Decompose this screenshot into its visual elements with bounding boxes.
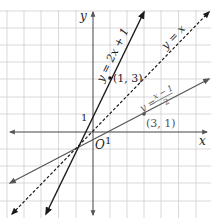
origin-label: O [95, 138, 105, 152]
label-line-y-half: y = x − 1 2 [135, 83, 179, 118]
y-tick-label: 1 [81, 112, 87, 123]
line-y-half-x-minus-half [10, 79, 209, 183]
grid [0, 10, 211, 218]
line-y-equals-x [12, 12, 209, 214]
coordinate-plane: y x O 1 1 y = 2x + 1 y = x y = x − 1 2 (… [0, 0, 211, 218]
point-label-3-1: (3, 1) [146, 117, 176, 130]
x-tick-label: 1 [105, 135, 111, 146]
y-axis-label: y [79, 9, 87, 23]
x-axis-label: x [199, 134, 206, 148]
svg-text:2: 2 [162, 97, 171, 107]
line-y-2x-plus-1 [46, 12, 144, 214]
point-label-1-3: (1, 3) [113, 72, 143, 85]
